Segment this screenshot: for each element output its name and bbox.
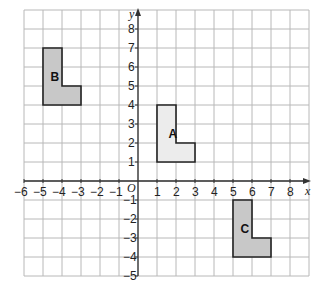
x-axis-label: x — [304, 184, 311, 198]
x-tick-label: −4 — [52, 185, 66, 199]
shape-label-a: A — [168, 127, 177, 141]
y-tick-label: 7 — [128, 41, 135, 55]
y-tick-label: 5 — [128, 79, 135, 93]
y-tick-label: 4 — [128, 98, 135, 112]
shape-b — [43, 48, 81, 105]
x-tick-label: 6 — [249, 185, 256, 199]
x-tick-label: 8 — [287, 185, 294, 199]
x-tick-label: −3 — [71, 185, 85, 199]
y-axis-label: y — [128, 7, 135, 21]
y-tick-label: −2 — [123, 212, 137, 226]
y-tick-label: 8 — [128, 22, 135, 36]
y-tick-label: −5 — [123, 269, 137, 283]
y-tick-label: 3 — [128, 117, 135, 131]
y-tick-label: 1 — [128, 155, 135, 169]
y-tick-label: −4 — [123, 250, 137, 264]
x-tick-label: 7 — [268, 185, 275, 199]
y-tick-label: 6 — [128, 60, 135, 74]
coordinate-grid: ABCxyO−6−5−4−3−2−11234567887654321−1−2−3… — [0, 0, 324, 293]
x-tick-label: −1 — [109, 185, 123, 199]
x-tick-label: −6 — [14, 185, 28, 199]
y-tick-label: −3 — [123, 231, 137, 245]
x-tick-label: −5 — [33, 185, 47, 199]
y-tick-label: 2 — [128, 136, 135, 150]
shape-label-c: C — [241, 222, 250, 236]
y-axis-arrow-icon — [135, 8, 141, 16]
x-tick-label: 1 — [154, 185, 161, 199]
x-tick-label: 2 — [173, 185, 180, 199]
shape-c — [233, 200, 271, 257]
x-tick-label: −2 — [90, 185, 104, 199]
x-tick-label: 3 — [192, 185, 199, 199]
x-tick-label: 5 — [230, 185, 237, 199]
shape-label-b: B — [51, 70, 60, 84]
y-tick-label: −1 — [123, 193, 137, 207]
x-tick-label: 4 — [211, 185, 218, 199]
